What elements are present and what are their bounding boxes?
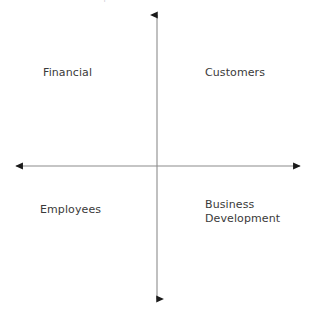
quadrant-diagram-canvas: Balanced Scorecard Perspectives Financia… — [0, 0, 315, 316]
axes-group — [0, 0, 315, 316]
quadrant-label-employees: Employees — [40, 203, 101, 217]
quadrant-label-financial: Financial — [43, 66, 92, 80]
quadrant-label-business-development: Business Development — [205, 198, 280, 225]
quadrant-label-customers: Customers — [205, 66, 265, 80]
